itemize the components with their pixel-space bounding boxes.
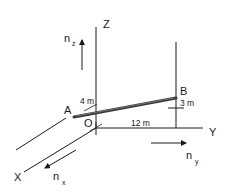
nz-subscript: z (72, 40, 76, 47)
point-a-label: A (64, 104, 72, 116)
point-b-label: B (180, 85, 187, 97)
nx-label: n (53, 170, 59, 182)
nx-subscript: x (62, 179, 66, 186)
nx-arrow (45, 150, 76, 168)
y-axis-label: Y (209, 126, 217, 138)
diagram-canvas: Z Y X O A B 4 m 3 m 12 m n z n y n x (0, 0, 233, 195)
z-axis-label: Z (103, 18, 110, 30)
dim-3-label: 3 m (180, 98, 194, 108)
a-parallel-line (16, 118, 66, 150)
origin-label: O (84, 117, 93, 129)
x-axis (24, 128, 96, 172)
ny-subscript: y (195, 158, 199, 166)
x-axis-label: X (14, 171, 22, 183)
nz-label: n (64, 32, 70, 44)
ny-label: n (186, 149, 192, 161)
dim-12-label: 12 m (131, 118, 150, 128)
dim-4-label: 4 m (80, 96, 94, 106)
